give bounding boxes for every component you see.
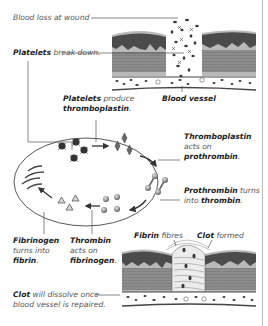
vessel-repaired-text: blood vessel is repaired. [13,300,106,309]
label-platelets-produce: Platelets produce [63,94,134,103]
fibrinogen-icon [58,195,79,210]
into-text: into [184,196,199,205]
fibrinogen-term: fibrinogen [70,256,114,265]
prothrombin-term: Prothrombin [184,186,238,195]
thrombin-term: thrombin [201,196,240,205]
thromboplastin-term: Thromboplastin [184,132,251,141]
clot-illustration [122,240,256,306]
produce-text: produce [103,94,134,103]
fibres-text: fibres [161,231,182,240]
label-fibrin-fibres: Fibrin fibres [134,231,183,240]
thrombin-term: Thrombin [70,236,111,245]
label-fibrin: fibrin. [13,256,39,265]
label-prothrombin: prothrombin. [184,152,240,161]
label-into-thrombin: into thrombin. [184,196,243,205]
break-down-text: break down. [53,48,100,57]
label-thromboplastin-acts: Thromboplastin [184,132,251,141]
wound-illustration [112,19,256,90]
period: . [129,104,131,113]
label-fibrinogen: Fibrinogen [13,236,59,245]
blood-vessel-text: Blood vessel [162,94,216,103]
label-clot-dissolve: Clot will dissolve once [13,290,99,299]
label-thrombin-acts: Thrombin [70,236,111,245]
turns-text: turns [240,186,260,195]
fibrin-term: fibrin [13,256,36,265]
label-acts-on-2: acts on [70,246,98,255]
label-blood-loss: Blood loss at wound [13,13,89,22]
period: . [114,256,116,265]
blood-loss-text: Blood loss at wound [13,13,89,22]
thromboplastin-term: thromboplastin [63,104,129,113]
period: . [36,256,38,265]
prothrombin-term: prothrombin [184,152,238,161]
label-clot-formed: Clot formed [197,231,244,240]
period: . [240,196,242,205]
formed-text: formed [216,231,243,240]
label-acts-on: acts on [184,142,212,151]
label-turns-into: turns into [13,246,50,255]
label-vessel-repaired: blood vessel is repaired. [13,300,106,309]
acts-on-text: acts on [70,246,98,255]
clot-term: Clot [13,290,30,299]
platelets-term: Platelets [13,48,51,57]
fibrin-icon [22,166,44,189]
platelets-term: Platelets [63,94,101,103]
acts-on-text: acts on [184,142,212,151]
period: . [238,152,240,161]
fibrin-term: Fibrin [134,231,159,240]
clot-term: Clot [197,231,214,240]
clotting-cycle [14,133,168,226]
dissolve-text: will dissolve once [32,290,98,299]
thrombin-icon [101,194,120,213]
label-thromboplastin: thromboplastin. [63,104,131,113]
label-fibrinogen-2: fibrinogen. [70,256,117,265]
label-platelets-break-down: Platelets break down. [13,48,100,57]
prothrombin-icon [145,173,168,195]
turns-into-text: turns into [13,246,50,255]
label-prothrombin-turns: Prothrombin turns [184,186,260,195]
label-blood-vessel: Blood vessel [162,94,216,103]
fibrinogen-term: Fibrinogen [13,236,59,245]
